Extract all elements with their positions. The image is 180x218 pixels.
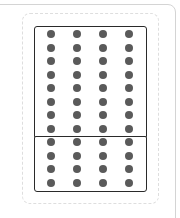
- top-group-dot: [99, 71, 107, 79]
- top-group-dot: [47, 44, 55, 52]
- bottom-group-dot: [73, 165, 81, 173]
- bottom-group-dot: [99, 165, 107, 173]
- top-group-dot: [47, 30, 55, 38]
- top-group-dot: [99, 84, 107, 92]
- bottom-group-dot: [99, 138, 107, 146]
- top-group-dot: [125, 98, 133, 106]
- bottom-group-dot: [47, 138, 55, 146]
- top-group-dot: [73, 125, 81, 133]
- bottom-group-dot: [47, 152, 55, 160]
- top-group-dot: [73, 30, 81, 38]
- top-group-dot: [125, 125, 133, 133]
- top-group-dot: [47, 111, 55, 119]
- bottom-group-dot: [125, 179, 133, 187]
- bottom-group-dot: [125, 138, 133, 146]
- top-group-dot: [73, 44, 81, 52]
- bottom-group-dot: [73, 179, 81, 187]
- bottom-group-dot: [99, 152, 107, 160]
- bottom-group-dot: [125, 165, 133, 173]
- top-group-dot: [47, 57, 55, 65]
- top-group-dot: [73, 84, 81, 92]
- top-group-dot: [125, 30, 133, 38]
- top-group-dot: [125, 57, 133, 65]
- top-group-dot: [47, 98, 55, 106]
- top-group-dot: [47, 84, 55, 92]
- top-group-dot: [125, 71, 133, 79]
- top-group-box: [34, 26, 147, 138]
- bottom-group-dot: [47, 179, 55, 187]
- top-group-dot: [99, 98, 107, 106]
- bottom-group-dot: [99, 179, 107, 187]
- top-group-dot: [73, 57, 81, 65]
- top-group-dot: [99, 44, 107, 52]
- bottom-group-dot: [73, 152, 81, 160]
- top-group-dot: [99, 111, 107, 119]
- bottom-group-dot: [73, 138, 81, 146]
- top-group-dot: [73, 98, 81, 106]
- top-group-dot: [73, 111, 81, 119]
- bottom-group-dot: [47, 165, 55, 173]
- top-group-dot: [47, 71, 55, 79]
- bottom-group-dot: [125, 152, 133, 160]
- top-group-dot: [73, 71, 81, 79]
- top-group-dot: [47, 125, 55, 133]
- top-group-dot: [125, 111, 133, 119]
- top-group-dot: [99, 125, 107, 133]
- top-group-dot: [125, 44, 133, 52]
- top-group-dot: [125, 84, 133, 92]
- top-group-dot: [99, 57, 107, 65]
- top-group-dot: [99, 30, 107, 38]
